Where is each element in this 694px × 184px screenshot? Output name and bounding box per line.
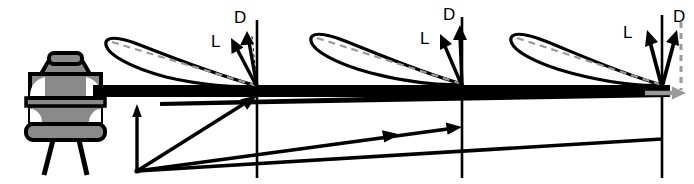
label-drag-tip: D bbox=[673, 7, 685, 26]
label-drag-inboard: D bbox=[234, 8, 246, 27]
hub-cap bbox=[49, 53, 82, 64]
label-drag-mid: D bbox=[443, 5, 455, 24]
vector-origin-inboard bbox=[255, 86, 259, 90]
hub-bottom-flange bbox=[26, 124, 105, 140]
velocity-fan-apex bbox=[134, 168, 139, 173]
rotor-blade-vector-diagram: L D L D bbox=[0, 0, 694, 184]
blade-spar bbox=[93, 85, 670, 109]
vector-origin-mid bbox=[460, 85, 464, 89]
label-lift-inboard: L bbox=[211, 32, 220, 51]
label-lift-mid: L bbox=[420, 29, 429, 48]
label-lift-tip: L bbox=[623, 23, 632, 42]
diagram-canvas: L D L D bbox=[0, 0, 694, 184]
hub-spar-collar bbox=[93, 85, 105, 97]
vector-origin-tip bbox=[660, 86, 665, 91]
